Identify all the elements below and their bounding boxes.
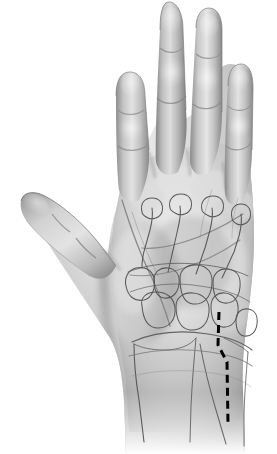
index-finger — [116, 72, 149, 202]
middle-finger — [156, 2, 187, 175]
middle-knuckle-sheen — [158, 56, 186, 88]
little-knuckle-sheen — [227, 113, 251, 139]
palm-hollow-shadow — [148, 216, 232, 308]
middle-fingertip-highlight — [161, 7, 181, 33]
hand-illustration — [0, 0, 277, 454]
index-knuckle-sheen — [118, 114, 144, 142]
illustration-canvas: Hand, palmar view with skeletal outline … — [0, 0, 277, 454]
little-fingertip-highlight — [231, 69, 249, 91]
ring-fingertip-highlight — [199, 14, 219, 38]
ring-knuckle-sheen — [194, 63, 220, 93]
index-fingertip-highlight — [120, 73, 140, 97]
